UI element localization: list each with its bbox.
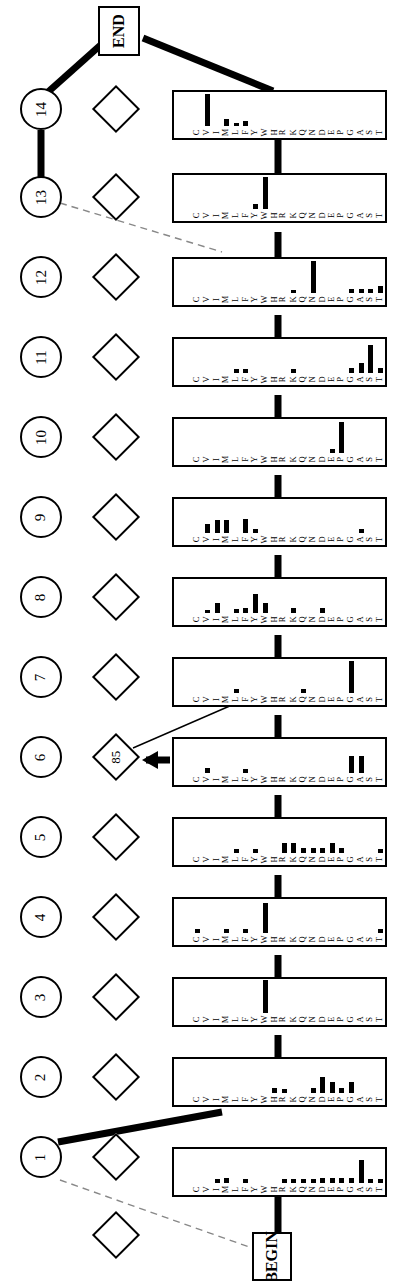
residue-column: E (327, 579, 337, 625)
residue-label: S (365, 213, 376, 218)
insert-state-4[interactable] (92, 893, 140, 941)
residue-column: Q (299, 979, 309, 1025)
residue-label: Q (298, 1016, 309, 1022)
residue-column: G (347, 739, 357, 785)
match-state-5[interactable]: TSAGPEDNQKRHWYFLMIVC (172, 817, 387, 867)
match-state-12[interactable]: TSAGPEDNQKRHWYFLMIVC (172, 257, 387, 307)
insert-state-2[interactable] (92, 1053, 140, 1101)
delete-state-4[interactable]: 4 (20, 896, 62, 938)
emission-bar (263, 980, 268, 1013)
residue-column: Q (299, 259, 309, 305)
insert-state-11[interactable] (92, 333, 140, 381)
residue-label: V (202, 1096, 213, 1102)
insert-state-5[interactable] (92, 813, 140, 861)
residue-column: E (327, 92, 337, 138)
match-state-3[interactable]: TSAGPEDNQKRHWYFLMIVC (172, 977, 387, 1027)
residue-column: K (289, 175, 299, 221)
emission-residue-track: TSAGPEDNQKRHWYFLMIVC (174, 819, 385, 865)
delete-state-5[interactable]: 5 (20, 816, 62, 858)
emission-bar (263, 603, 268, 613)
residue-column: V (203, 92, 213, 138)
residue-column: Y (251, 92, 261, 138)
delete-state-10[interactable]: 10 (20, 416, 62, 458)
insert-state-8[interactable] (92, 573, 140, 621)
residue-label: T (375, 457, 386, 462)
residue-label: A (356, 376, 367, 382)
hmm-architecture-diagram: END BEGIN 14 13 12 11 10 9 8 7 6 5 4 3 2… (0, 0, 399, 1281)
residue-label: T (375, 1187, 386, 1192)
delete-state-6[interactable]: 6 (20, 736, 62, 778)
residue-column: C (193, 1059, 203, 1105)
delete-state-13[interactable]: 13 (20, 176, 62, 218)
begin-node[interactable]: BEGIN (252, 1232, 292, 1281)
residue-column: Y (251, 899, 261, 945)
residue-column: M (222, 659, 232, 705)
insert-state-7[interactable] (92, 653, 140, 701)
delete-state-12[interactable]: 12 (20, 256, 62, 298)
residue-column: K (289, 259, 299, 305)
match-state-13[interactable]: TSAGPEDNQKRHWYFLMIVC (172, 173, 387, 223)
residue-column: A (356, 339, 366, 385)
insert-state-1[interactable] (92, 1133, 140, 1181)
residue-column: H (270, 175, 280, 221)
residue-column: Q (299, 1149, 309, 1195)
residue-label: N (308, 536, 319, 542)
residue-label: W (260, 935, 271, 943)
match-state-14[interactable]: TSAGPEDNQKRHWYFLMIVC (172, 90, 387, 140)
match-state-10[interactable]: TSAGPEDNQKRHWYFLMIVC (172, 417, 387, 467)
match-state-7[interactable]: TSAGPEDNQKRHWYFLMIVC (172, 657, 387, 707)
residue-column: V (203, 659, 213, 705)
residue-label: S (365, 857, 376, 862)
delete-state-3[interactable]: 3 (20, 976, 62, 1018)
insert-state-9[interactable] (92, 493, 140, 541)
residue-label: W (260, 128, 271, 136)
insert-state-13[interactable] (92, 173, 140, 221)
insert-state-3[interactable] (92, 973, 140, 1021)
match-state-2[interactable]: TSAGPEDNQKRHWYFLMIVC (172, 1057, 387, 1107)
insert-state-0[interactable] (92, 1211, 140, 1259)
delete-state-14[interactable]: 14 (20, 88, 62, 130)
end-node[interactable]: END (98, 6, 140, 56)
delete-state-11[interactable]: 11 (20, 336, 62, 378)
residue-label: C (192, 617, 203, 623)
residue-label: C (192, 213, 203, 219)
insert-state-14[interactable] (92, 85, 140, 133)
residue-column: C (193, 899, 203, 945)
residue-label: I (212, 1018, 223, 1021)
residue-column: V (203, 175, 213, 221)
residue-label: T (375, 617, 386, 622)
delete-state-1[interactable]: 1 (20, 1136, 62, 1178)
residue-label: N (308, 1016, 319, 1022)
residue-column: N (308, 1149, 318, 1195)
delete-state-8[interactable]: 8 (20, 576, 62, 618)
match-state-6[interactable]: TSAGPEDNQKRHWYFLMIVC (172, 737, 387, 787)
match-state-4[interactable]: TSAGPEDNQKRHWYFLMIVC (172, 897, 387, 947)
delete-state-label: 2 (33, 1073, 50, 1081)
residue-label: C (192, 377, 203, 383)
residue-column: C (193, 739, 203, 785)
emission-bar (272, 1088, 277, 1093)
match-state-1[interactable]: TSAGPEDNQKRHWYFLMIVC (172, 1147, 387, 1197)
residue-column: W (260, 739, 270, 785)
emission-residue-track: TSAGPEDNQKRHWYFLMIVC (174, 259, 385, 305)
residue-label: K (288, 1186, 299, 1192)
match-state-11[interactable]: TSAGPEDNQKRHWYFLMIVC (172, 337, 387, 387)
residue-label: V (202, 456, 213, 462)
residue-column: N (308, 499, 318, 545)
match-state-9[interactable]: TSAGPEDNQKRHWYFLMIVC (172, 497, 387, 547)
delete-state-2[interactable]: 2 (20, 1056, 62, 1098)
insert-state-6[interactable]: 85 (92, 733, 140, 781)
residue-column: G (347, 339, 357, 385)
residue-column: M (222, 979, 232, 1025)
residue-column: P (337, 979, 347, 1025)
delete-state-7[interactable]: 7 (20, 656, 62, 698)
emission-bar (301, 689, 306, 693)
residue-label: L (231, 213, 242, 218)
insert-state-10[interactable] (92, 413, 140, 461)
residue-column: E (327, 259, 337, 305)
residue-column: P (337, 659, 347, 705)
insert-state-12[interactable] (92, 253, 140, 301)
residue-label: A (356, 776, 367, 782)
delete-state-9[interactable]: 9 (20, 496, 62, 538)
match-state-8[interactable]: TSAGPEDNQKRHWYFLMIVC (172, 577, 387, 627)
